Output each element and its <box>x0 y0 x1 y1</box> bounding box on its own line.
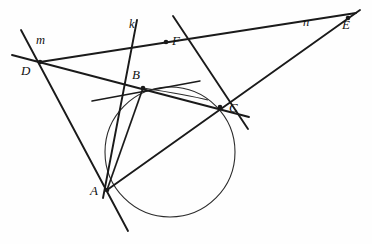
point-dot-F <box>164 40 169 45</box>
circle-layer <box>105 87 235 217</box>
line-label-n: n <box>303 16 309 29</box>
geometry-canvas <box>0 0 372 244</box>
chord-B-to-A <box>107 88 143 190</box>
segment-layer <box>12 10 360 231</box>
point-dot-C <box>218 105 223 110</box>
line-m-through-D-A <box>21 30 128 231</box>
point-label-F: F <box>172 34 180 47</box>
point-label-E: E <box>342 18 350 31</box>
secant-D-B-C <box>12 55 249 117</box>
line-label-k: k <box>129 18 135 31</box>
point-dot-B <box>141 86 146 91</box>
line-label-m: m <box>36 34 45 47</box>
point-label-A: A <box>90 184 98 197</box>
point-dot-layer <box>38 16 351 193</box>
point-label-D: D <box>21 64 30 77</box>
point-label-B: B <box>132 68 140 81</box>
circumcircle-abc <box>105 87 235 217</box>
point-dot-D <box>38 60 43 65</box>
tangent-at-B <box>92 81 200 101</box>
point-label-C: C <box>229 101 238 114</box>
geometry-figure: ABCDEFmkn <box>0 0 372 244</box>
point-dot-A <box>105 188 110 193</box>
